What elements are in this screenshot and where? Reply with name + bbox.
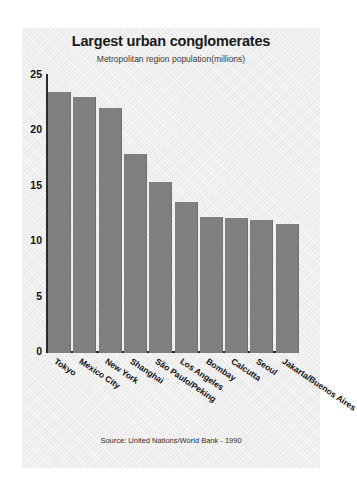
bar <box>99 108 122 353</box>
bar <box>276 224 299 353</box>
y-tick-label: 0 <box>36 345 42 357</box>
plot-area: 0510152025 TokyoMexico CityNew YorkShang… <box>46 74 302 354</box>
y-tick-label: 15 <box>30 179 42 191</box>
chart-subtitle: Metropolitan region population(millions) <box>22 54 320 64</box>
bar <box>149 182 172 353</box>
chart-title: Largest urban conglomerates <box>22 33 320 49</box>
bar <box>250 220 273 353</box>
y-tick-label: 20 <box>30 123 42 135</box>
bar <box>124 154 147 352</box>
bar <box>48 92 71 352</box>
source-note: Source: United Nations/World Bank - 1990 <box>22 436 320 445</box>
bar <box>73 97 96 353</box>
y-tick-label: 25 <box>30 68 42 80</box>
y-tick-label: 10 <box>30 234 42 246</box>
bar <box>175 202 198 353</box>
bar <box>225 218 248 352</box>
bar <box>200 217 223 352</box>
y-tick-label: 5 <box>36 290 42 302</box>
